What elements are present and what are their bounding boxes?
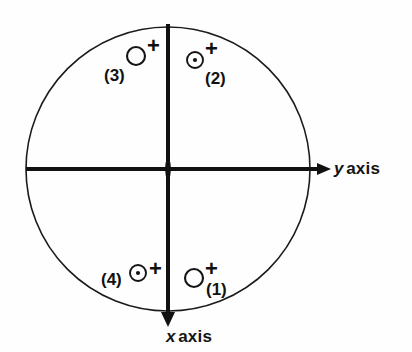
x-axis-label: xaxis bbox=[166, 328, 212, 345]
quadrant-circle-figure: + + + + (1) (2) (3) (4) yaxis xaxis bbox=[0, 0, 412, 352]
marker-3-plus-sign: + bbox=[147, 35, 160, 57]
y-axis-word: axis bbox=[346, 159, 380, 178]
y-axis-symbol: y bbox=[334, 159, 346, 178]
marker-1-plus-sign: + bbox=[205, 258, 218, 280]
marker-1-circle bbox=[185, 269, 203, 287]
marker-2-center-dot bbox=[193, 58, 197, 62]
marker-2-plus-sign: + bbox=[205, 38, 218, 60]
marker-4-plus-sign: + bbox=[149, 258, 162, 280]
marker-4-label: (4) bbox=[101, 271, 122, 288]
x-axis-word: axis bbox=[178, 327, 212, 346]
x-axis-arrowhead bbox=[161, 312, 175, 327]
y-axis-label: yaxis bbox=[334, 160, 380, 177]
marker-3-label: (3) bbox=[104, 67, 125, 84]
marker-2-label: (2) bbox=[205, 70, 226, 87]
marker-4-center-dot bbox=[136, 271, 140, 275]
x-axis-symbol: x bbox=[166, 327, 178, 346]
origin-marker bbox=[165, 156, 171, 182]
y-axis-arrowhead bbox=[317, 163, 331, 175]
marker-3-circle bbox=[127, 47, 145, 65]
marker-1-label: (1) bbox=[206, 281, 227, 298]
